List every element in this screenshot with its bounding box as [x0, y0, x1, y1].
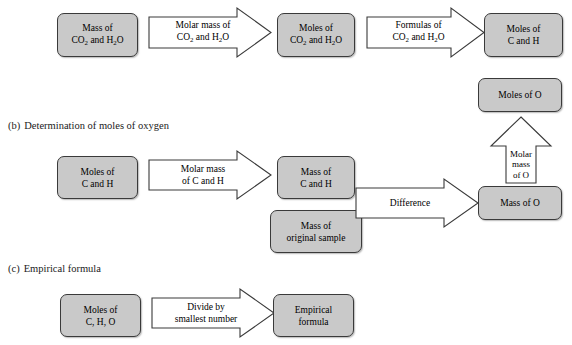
box-moles-of-c-h-b: Moles ofC and H	[57, 156, 138, 199]
arrow-label: Difference	[390, 197, 444, 209]
section-label-b: (b)Determination of moles of oxygen	[8, 120, 169, 132]
arrow-label: Molar mass ofCO2 and H2O	[176, 19, 245, 46]
box-mass-of-c-h: Mass ofC and H	[277, 156, 355, 199]
box-moles-of-c-h-a: Moles ofC and H	[484, 13, 563, 57]
section-title-c: Empirical formula	[24, 263, 101, 274]
box-label: Moles ofC, H, O	[80, 304, 120, 328]
box-empirical-formula: Empiricalformula	[273, 294, 354, 337]
arrow-label: Formulas ofCO2 and H2O	[392, 19, 458, 46]
arrow-label: Molarmassof O	[510, 149, 532, 185]
arrow-label: Molar massof C and H	[181, 163, 240, 187]
section-title-b: Determination of moles of oxygen	[24, 120, 169, 131]
box-moles-of-o: Moles of O	[478, 78, 562, 112]
box-label: Moles ofC and H	[77, 166, 117, 190]
box-label: Moles ofCO2 and H2O	[287, 22, 345, 49]
arrow-label: Divide bysmallest number	[175, 301, 252, 325]
box-label: Mass oforiginal sample	[284, 220, 349, 244]
section-index-c: (c)	[8, 263, 20, 274]
box-label: Moles ofC and H	[503, 23, 543, 47]
box-mass-of-co2-h2o: Mass ofCO2 and H2O	[57, 13, 138, 57]
arrow-molar-mass-of-o: Molarmassof O	[490, 116, 552, 184]
box-label: Moles of O	[495, 89, 544, 101]
arrow-molar-mass-co2-h2o: Molar mass ofCO2 and H2O	[148, 7, 272, 58]
box-label: Empiricalformula	[292, 304, 335, 328]
section-label-c: (c)Empirical formula	[8, 263, 101, 275]
box-moles-of-c-h-o: Moles ofC, H, O	[60, 294, 141, 337]
arrow-molar-mass-c-h: Molar massof C and H	[148, 150, 272, 200]
arrow-divide-by-smallest-number: Divide bysmallest number	[151, 288, 275, 338]
box-moles-of-co2-h2o: Moles ofCO2 and H2O	[277, 13, 355, 57]
box-label: Mass ofCO2 and H2O	[68, 22, 126, 49]
box-mass-of-original-sample: Mass oforiginal sample	[270, 210, 362, 253]
arrow-formulas-co2-h2o: Formulas ofCO2 and H2O	[366, 7, 485, 58]
box-mass-of-o: Mass of O	[478, 186, 562, 220]
combustion-analysis-flowchart: (b)Determination of moles of oxygen (c)E…	[0, 0, 572, 345]
section-index-b: (b)	[8, 120, 20, 131]
arrow-difference: Difference	[355, 178, 479, 228]
box-label: Mass of O	[497, 197, 543, 209]
box-label: Mass ofC and H	[297, 166, 335, 190]
